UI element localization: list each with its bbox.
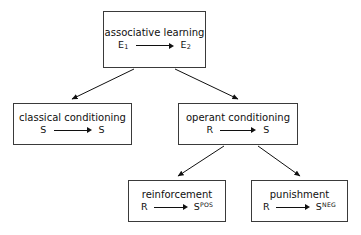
relation-right-term: SPOS <box>194 202 213 212</box>
relation-right-term: SNEG <box>316 202 336 212</box>
relation-arrow-icon <box>220 127 256 134</box>
relation-left-term: S <box>40 125 46 135</box>
node-reinforcement-label: reinforcement <box>142 190 213 200</box>
relation-left-term: R <box>263 202 270 212</box>
connector-operant-to-reinforcement <box>178 146 224 176</box>
connector-associative-to-operant <box>175 69 238 99</box>
node-classical-conditioning-relation: S S <box>40 125 104 135</box>
relation-right-term: S <box>263 125 269 135</box>
relation-right-term: E2 <box>181 40 192 51</box>
relation-arrow-icon <box>276 204 310 211</box>
relation-arrow-icon <box>54 127 92 134</box>
node-classical-conditioning: classical conditioning S S <box>13 103 132 145</box>
connector-associative-to-classical <box>72 69 134 99</box>
node-reinforcement: reinforcement R SPOS <box>128 180 226 222</box>
node-punishment-relation: R SNEG <box>263 202 336 212</box>
relation-left-term: R <box>141 202 148 212</box>
node-punishment-label: punishment <box>270 190 330 200</box>
relation-arrow-icon <box>136 42 174 49</box>
relation-right-term: S <box>99 125 105 135</box>
node-reinforcement-relation: R SPOS <box>141 202 213 212</box>
node-operant-conditioning: operant conditioning R S <box>178 103 298 145</box>
node-associative-learning-label: associative learning <box>105 28 205 38</box>
node-classical-conditioning-label: classical conditioning <box>19 113 126 123</box>
node-operant-conditioning-label: operant conditioning <box>186 113 290 123</box>
connector-operant-to-punishment <box>258 146 300 176</box>
relation-left-term: E1 <box>118 40 129 51</box>
associative-learning-diagram: associative learning E1 E2 classical con… <box>0 0 361 235</box>
relation-left-term: R <box>206 125 213 135</box>
relation-arrow-icon <box>154 204 188 211</box>
node-associative-learning: associative learning E1 E2 <box>103 11 206 68</box>
node-associative-learning-relation: E1 E2 <box>118 40 191 51</box>
node-punishment: punishment R SNEG <box>251 180 348 222</box>
node-operant-conditioning-relation: R S <box>206 125 269 135</box>
